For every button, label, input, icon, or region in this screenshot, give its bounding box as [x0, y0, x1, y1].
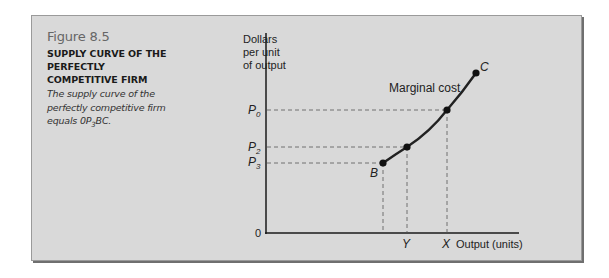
point-x	[443, 106, 450, 113]
marginal-cost-label: Marginal cost	[389, 81, 461, 95]
x-axis-label: Output (units)	[456, 238, 523, 250]
y-tick-p0: P0	[248, 103, 261, 119]
y-tick-p2: P2	[248, 140, 261, 156]
guide-lines	[267, 110, 447, 233]
y-axis-label-line3: of output	[243, 59, 286, 71]
origin-label: 0	[255, 227, 261, 239]
point-c	[472, 69, 479, 76]
point-y	[403, 143, 410, 150]
y-axis-label-line2: per unit	[243, 46, 280, 58]
y-tick-p3: P3	[248, 155, 261, 171]
point-b-label: B	[370, 166, 378, 180]
x-tick-y: Y	[402, 237, 411, 251]
point-b	[379, 159, 386, 166]
point-c-label: C	[480, 60, 489, 74]
supply-curve-chart: Dollars per unit of output Marginal cost…	[0, 0, 609, 278]
x-tick-x: X	[441, 237, 451, 251]
y-axis-label-line1: Dollars	[243, 33, 278, 45]
